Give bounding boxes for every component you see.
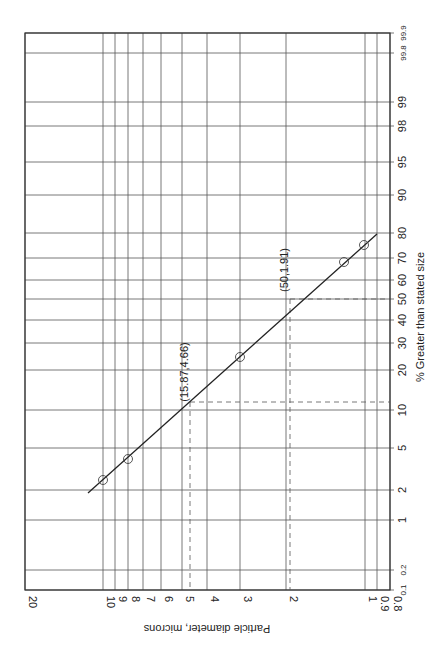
percent-tick-label: 1	[396, 517, 408, 523]
diameter-tick-label: 4	[209, 596, 221, 602]
diameter-tick-label: 6	[163, 596, 175, 602]
diameter-tick-label: 7	[145, 596, 157, 602]
diameter-tick-label: 10	[105, 596, 117, 608]
percent-tick-label: 95	[396, 156, 408, 168]
diameter-tick-labels: 20109876543210.90.8	[27, 596, 404, 611]
plot-frame	[25, 33, 390, 590]
annotation-15-87: (15.87,4.66)	[178, 342, 190, 401]
percent-tick-label: 5	[396, 445, 408, 451]
percent-tick-label: 30	[396, 337, 408, 349]
percent-gridlines	[25, 33, 394, 590]
diameter-gridlines	[25, 33, 390, 590]
best-fit-line	[88, 234, 377, 493]
diameter-tick-label: 3	[242, 596, 254, 602]
annotation-50: (50,1.91)	[278, 248, 290, 292]
data-point-marker	[340, 258, 349, 267]
percent-tick-label: 60	[396, 274, 408, 286]
particle-size-probability-chart: 20109876543210.90.8 99.999.8999895908070…	[0, 0, 434, 646]
diameter-tick-label: 0.9	[379, 596, 391, 611]
x-axis-label: % Greater than stated size	[414, 252, 426, 382]
diameter-tick-label: 5	[184, 596, 196, 602]
percent-tick-label: 70	[396, 252, 408, 264]
percent-tick-label: 40	[396, 314, 408, 326]
percent-tick-label: 80	[396, 227, 408, 239]
diameter-tick-label: 2	[288, 596, 300, 602]
percent-tick-label: 2	[396, 487, 408, 493]
percent-tick-label: 98	[396, 120, 408, 132]
percent-tick-label: 20	[396, 364, 408, 376]
percent-tick-label: 90	[396, 189, 408, 201]
diameter-tick-label: 9	[117, 596, 129, 602]
diameter-tick-label: 20	[27, 596, 39, 608]
percent-tick-label: 0.2	[399, 564, 408, 576]
percent-tick-labels: 99.999.89998959080706050403020105210.20.…	[396, 25, 408, 596]
diameter-tick-label: 1	[367, 596, 379, 602]
percent-tick-label: 99.9	[399, 25, 408, 41]
percent-tick-label: 99	[396, 96, 408, 108]
percent-tick-label: 99.8	[399, 45, 408, 61]
percent-tick-label: 10	[396, 404, 408, 416]
percent-tick-label: 50	[396, 293, 408, 305]
diameter-tick-label: 0.8	[392, 596, 404, 611]
diameter-tick-label: 8	[130, 596, 142, 602]
y-axis-label: Particle diameter, microns	[143, 623, 270, 635]
percent-tick-label: 0.1	[399, 584, 408, 596]
